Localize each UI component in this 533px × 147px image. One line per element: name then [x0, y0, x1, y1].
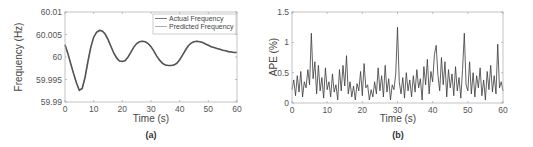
x-tick-label: 50	[204, 104, 214, 114]
y-tick-label: 60	[53, 52, 63, 62]
frequency-plot-area: 010203040506059.9959.9956060.00560.01Act…	[36, 7, 242, 114]
x-tick-label: 0	[63, 104, 68, 114]
series-line-predicted-frequency	[65, 30, 237, 90]
legend-entry: Predicted Frequency	[169, 23, 234, 31]
series-line-actual-frequency	[65, 30, 237, 90]
y-tick-label: 60.005	[36, 30, 62, 40]
y-tick-label: 60.01	[41, 7, 63, 17]
ape-x-axis-label: Time (s)	[380, 113, 416, 124]
y-tick-label: 59.99	[41, 97, 63, 107]
x-tick-label: 50	[463, 105, 473, 115]
y-tick-label: 59.995	[36, 75, 62, 85]
y-tick-label: 1.5	[277, 7, 289, 17]
x-tick-label: 20	[118, 104, 128, 114]
x-tick-label: 0	[290, 105, 295, 115]
ape-caption: (b)	[392, 130, 404, 140]
x-tick-label: 60	[498, 105, 508, 115]
ape-chart: 010203040506000.511.5 APE (%) Time (s) (…	[266, 0, 533, 147]
x-tick-label: 10	[322, 105, 332, 115]
y-tick-label: 1	[284, 37, 289, 47]
x-tick-label: 40	[428, 105, 438, 115]
x-tick-label: 40	[175, 104, 185, 114]
x-tick-label: 60	[232, 104, 242, 114]
frequency-chart: 010203040506059.9959.9956060.00560.01Act…	[0, 0, 266, 147]
legend-entry: Actual Frequency	[169, 15, 224, 23]
x-tick-label: 20	[358, 105, 368, 115]
frequency-x-axis-label: Time (s)	[133, 113, 169, 124]
frequency-y-axis-label: Frequency (Hz)	[13, 23, 24, 92]
ape-plot-area: 010203040506000.511.5	[277, 7, 508, 115]
ape-y-axis-label: APE (%)	[268, 38, 279, 76]
legend: Actual FrequencyPredicted Frequency	[153, 14, 236, 34]
series-line-ape	[292, 27, 503, 100]
y-tick-label: 0	[284, 98, 289, 108]
figure: 010203040506059.9959.9956060.00560.01Act…	[0, 0, 533, 147]
frequency-caption: (a)	[146, 130, 157, 140]
x-tick-label: 10	[89, 104, 99, 114]
